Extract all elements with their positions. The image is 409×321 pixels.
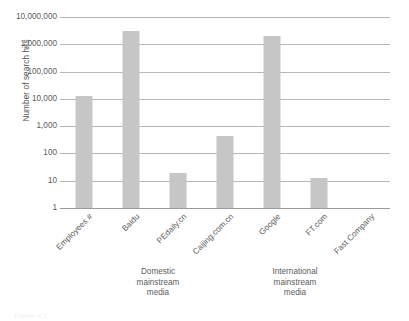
y-tick-label: 1 xyxy=(1,204,57,212)
bar-series xyxy=(60,17,390,208)
group-label-line: media xyxy=(250,288,340,299)
y-tick-label: 10,000 xyxy=(1,95,57,103)
bar-slot xyxy=(201,17,248,208)
bar[interactable] xyxy=(169,173,186,208)
plot-area xyxy=(60,17,390,208)
y-tick-label: 100 xyxy=(1,149,57,157)
group-label-domestic: Domesticmainstreammedia xyxy=(113,267,203,299)
y-tick-label: 1,000,000 xyxy=(1,40,57,48)
bar-slot xyxy=(154,17,201,208)
group-label-line: Domestic xyxy=(113,267,203,278)
bar[interactable] xyxy=(264,36,281,208)
group-label-line: media xyxy=(113,288,203,299)
group-label-line: mainstream xyxy=(250,278,340,289)
group-label-international: Internationalmainstreammedia xyxy=(250,267,340,299)
bar[interactable] xyxy=(216,136,233,208)
y-tick-label: 100,000 xyxy=(1,68,57,76)
y-tick-label: 10,000,000 xyxy=(1,13,57,21)
figure-caption: Figure 4.1 xyxy=(14,311,48,319)
x-axis-tick-labels: Employees #BaiduPEdaily.cnCaijing.com.cn… xyxy=(60,208,390,268)
bar-slot xyxy=(249,17,296,208)
bar[interactable] xyxy=(122,31,139,208)
bar-slot xyxy=(107,17,154,208)
bar[interactable] xyxy=(75,96,92,208)
group-label-line: International xyxy=(250,267,340,278)
bar-chart: Number of search hits 10,000,0001,000,00… xyxy=(0,0,409,321)
bar[interactable] xyxy=(311,178,328,208)
y-tick-label: 10 xyxy=(1,177,57,185)
bar-slot xyxy=(296,17,343,208)
bar-slot xyxy=(343,17,390,208)
bar-slot xyxy=(60,17,107,208)
group-label-line: mainstream xyxy=(113,278,203,289)
y-tick-label: 1,000 xyxy=(1,122,57,130)
